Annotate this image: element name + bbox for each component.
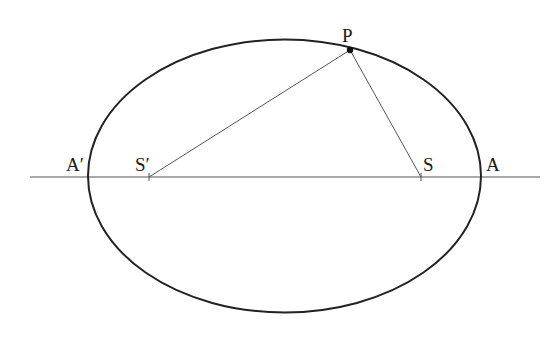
label-s-prime: S′ [135, 154, 150, 175]
segment-s-to-p [350, 50, 421, 177]
label-s: S [423, 154, 434, 175]
label-a: A [486, 154, 500, 175]
ellipse-orbit [88, 40, 481, 313]
segment-s-prime-to-p [149, 50, 350, 177]
ellipse-diagram: P A′ S′ S A [0, 0, 549, 339]
point-p-dot [347, 47, 353, 53]
label-a-prime: A′ [66, 154, 84, 175]
label-p: P [342, 25, 353, 46]
